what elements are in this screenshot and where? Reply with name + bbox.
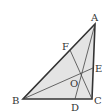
triangle-diagram: A B C D E F O [0, 0, 109, 112]
label-f: F [62, 41, 69, 52]
label-a: A [90, 12, 99, 23]
label-c: C [94, 95, 102, 106]
label-o: O [70, 78, 78, 89]
triangle-abc [23, 24, 95, 99]
label-b: B [12, 95, 19, 106]
label-e: E [95, 63, 102, 74]
label-d: D [71, 102, 79, 112]
